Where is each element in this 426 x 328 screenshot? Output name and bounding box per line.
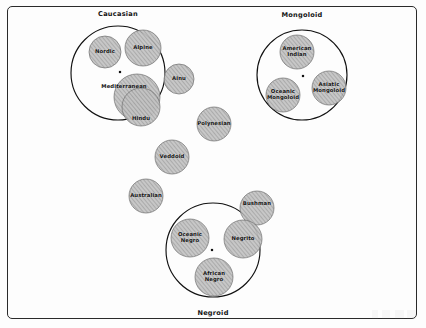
- population-label-line: Mongoloid: [267, 95, 299, 101]
- population-label-oceanic-negro: OceanicNegro: [178, 232, 202, 245]
- population-label-mediterranean: Mediterranean: [101, 84, 146, 90]
- population-label-polynesian: Polynesian: [197, 121, 230, 127]
- population-label-line: Veddoid: [160, 154, 185, 160]
- scan-watermark: [372, 310, 416, 319]
- population-label-australian: Australian: [130, 193, 162, 199]
- population-label-line: Bushman: [243, 201, 271, 207]
- population-label-hindu: Hindu: [132, 116, 150, 122]
- population-label-line: Mongoloid: [313, 88, 345, 94]
- population-label-line: Ainu: [172, 76, 186, 82]
- population-label-line: Indian: [283, 52, 312, 58]
- population-label-oceanic-mongoloid: OceanicMongoloid: [267, 89, 299, 102]
- population-label-line: Nordic: [95, 49, 115, 55]
- population-label-bushman: Bushman: [243, 201, 271, 207]
- population-label-line: Polynesian: [197, 121, 230, 127]
- race-classification-diagram: CaucasianMongoloidNegroid NordicAlpineMe…: [0, 0, 426, 328]
- population-label-alpine: Alpine: [133, 45, 153, 51]
- population-label-veddoid: Veddoid: [160, 154, 185, 160]
- population-label-line: Australian: [130, 193, 162, 199]
- group-center-dot-mongoloid: [302, 75, 304, 77]
- group-label-caucasian: Caucasian: [98, 10, 138, 18]
- population-label-nordic: Nordic: [95, 49, 115, 55]
- group-center-dot-caucasian: [119, 71, 121, 73]
- population-label-line: Negro: [203, 277, 225, 283]
- population-label-line: Hindu: [132, 116, 150, 122]
- group-label-negroid: Negroid: [197, 309, 228, 317]
- population-label-asiatic-mongoloid: AsiaticMongoloid: [313, 82, 345, 95]
- group-center-dot-negroid: [211, 249, 213, 251]
- population-label-line: Negrito: [231, 236, 254, 242]
- population-label-line: Mediterranean: [101, 84, 146, 90]
- population-label-american-indian: AmericanIndian: [283, 46, 312, 59]
- population-label-line: Negro: [178, 238, 202, 244]
- group-label-mongoloid: Mongoloid: [281, 11, 322, 19]
- population-label-line: Alpine: [133, 45, 153, 51]
- population-label-african-negro: AfricanNegro: [203, 271, 225, 284]
- population-label-negrito: Negrito: [231, 236, 254, 242]
- population-circle-layer: [89, 30, 346, 296]
- population-label-ainu: Ainu: [172, 76, 186, 82]
